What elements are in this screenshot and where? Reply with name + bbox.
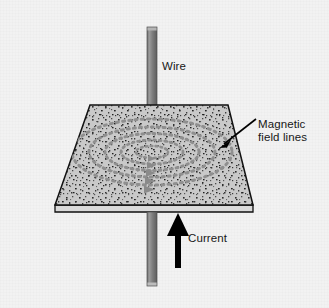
magnetic-field-lines-label: Magnetic field lines bbox=[258, 118, 328, 144]
wire-lower-segment bbox=[147, 212, 157, 286]
magnetic-field-lines-label-line1: Magnetic bbox=[258, 118, 305, 130]
diagram-canvas bbox=[0, 0, 329, 308]
current-label: Current bbox=[188, 232, 227, 245]
current-arrow bbox=[167, 213, 189, 268]
wire-label: Wire bbox=[162, 60, 186, 73]
card-thickness-edge bbox=[55, 205, 253, 212]
magnetic-field-figure: Wire Magnetic field lines Current bbox=[0, 0, 329, 308]
card-plane bbox=[55, 105, 253, 212]
magnetic-field-lines-label-line2: field lines bbox=[258, 131, 307, 143]
